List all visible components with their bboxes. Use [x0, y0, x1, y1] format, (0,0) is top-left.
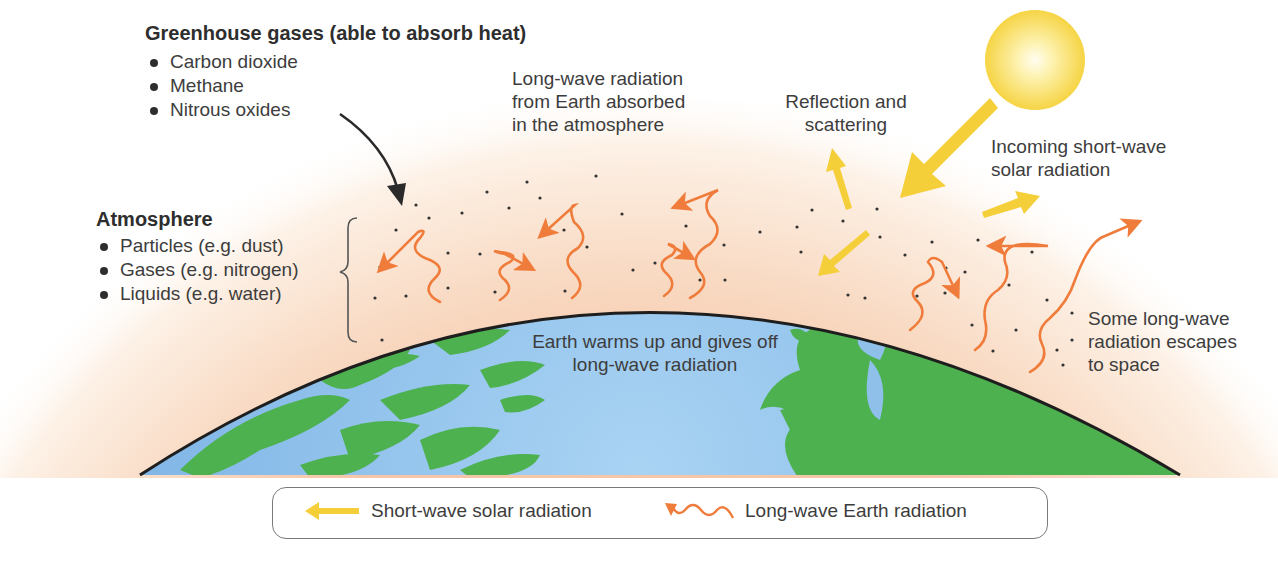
legend-short-wave: Short-wave solar radiation	[303, 500, 592, 522]
atmosphere-item: Liquids (e.g. water)	[96, 282, 298, 306]
legend-long-wave: Long-wave Earth radiation	[663, 500, 967, 522]
yellow-arrow-icon	[303, 501, 361, 521]
greenhouse-gases-heading: Greenhouse gases (able to absorb heat)	[145, 22, 526, 45]
sun	[985, 10, 1085, 110]
reflection-line: scattering	[766, 113, 926, 136]
gas-item: Carbon dioxide	[146, 50, 298, 74]
reflection-line: Reflection and	[766, 90, 926, 113]
escapes-annotation: Some long-wave radiation escapes to spac…	[1088, 307, 1237, 376]
absorbed-annotation: Long-wave radiation from Earth absorbed …	[512, 67, 685, 136]
gas-item: Nitrous oxides	[146, 98, 298, 122]
absorbed-line: Long-wave radiation	[512, 67, 685, 90]
atmosphere-item: Particles (e.g. dust)	[96, 234, 298, 258]
earth-warms-annotation: Earth warms up and gives off long-wave r…	[490, 330, 820, 376]
reflection-annotation: Reflection and scattering	[766, 90, 926, 136]
atmosphere-item: Gases (e.g. nitrogen)	[96, 258, 298, 282]
legend-long-wave-label: Long-wave Earth radiation	[745, 500, 967, 522]
escapes-line: Some long-wave	[1088, 307, 1237, 330]
absorbed-line: from Earth absorbed	[512, 90, 685, 113]
gas-item: Methane	[146, 74, 298, 98]
escapes-line: radiation escapes	[1088, 330, 1237, 353]
escapes-line: to space	[1088, 353, 1237, 376]
earth-warms-line: long-wave radiation	[490, 353, 820, 376]
legend-short-wave-label: Short-wave solar radiation	[371, 500, 592, 522]
atmosphere-heading: Atmosphere	[96, 208, 213, 231]
legend: Short-wave solar radiation Long-wave Ear…	[272, 487, 1048, 539]
incoming-annotation: Incoming short-wave solar radiation	[991, 135, 1166, 181]
orange-wave-arrow-icon	[663, 500, 735, 522]
earth-warms-line: Earth warms up and gives off	[490, 330, 820, 353]
greenhouse-gases-list: Carbon dioxide Methane Nitrous oxides	[146, 50, 298, 122]
incoming-line: solar radiation	[991, 158, 1166, 181]
absorbed-line: in the atmosphere	[512, 113, 685, 136]
incoming-line: Incoming short-wave	[991, 135, 1166, 158]
atmosphere-list: Particles (e.g. dust) Gases (e.g. nitrog…	[96, 234, 298, 306]
